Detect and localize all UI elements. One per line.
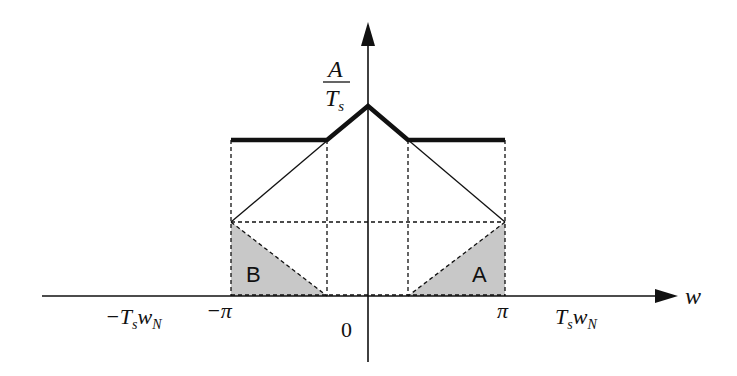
tick-neg-pi: −π [206,298,233,323]
y-label-denominator: Ts [325,85,344,114]
tick-tsw: TswN [555,304,597,332]
x-label: w [685,283,701,309]
tick-neg-tsw: −TswN [105,304,162,332]
aliasing-diagram: A Ts w −TswN −π 0 π TswN B A [0,0,737,376]
region-b-label: B [246,262,261,287]
tick-pi: π [497,298,509,323]
axes [42,40,665,362]
region-a-fill [408,222,505,296]
y-axis-arrow-icon [361,22,375,46]
tick-zero: 0 [341,317,352,342]
region-a-label: A [472,262,487,287]
y-label-numerator: A [326,56,343,82]
x-axis-arrow-icon [655,289,678,303]
